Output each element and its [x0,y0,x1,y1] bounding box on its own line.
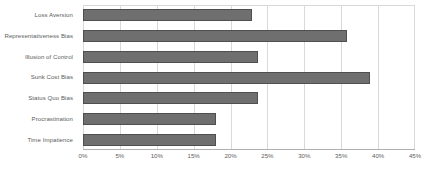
x-tick-label: 25% [261,153,273,159]
x-tick-label: 45% [409,153,421,159]
bar[interactable] [83,134,216,146]
x-axis-tick-labels: 0%5%10%15%20%25%30%35%40%45% [83,153,415,167]
bar[interactable] [83,72,370,84]
bar[interactable] [83,30,347,42]
x-tick-label: 5% [115,153,124,159]
bar[interactable] [83,113,216,125]
x-tick-label: 0% [79,153,88,159]
category-label: Procrastination [0,109,78,130]
category-axis-labels: Loss AversionRepresentativeness BiasIllu… [0,5,78,150]
x-axis-line [83,149,415,150]
bar[interactable] [83,51,258,63]
bar-slot [83,67,415,88]
bar[interactable] [83,9,252,21]
bar-slot [83,5,415,26]
category-label: Loss Aversion [0,5,78,26]
category-label: Illusion of Control [0,46,78,67]
x-tick-label: 30% [298,153,310,159]
bar-series [83,5,415,150]
x-tick-label: 15% [188,153,200,159]
category-label: Status Quo Bias [0,88,78,109]
category-label: Time Impatience [0,129,78,150]
x-tick-label: 35% [335,153,347,159]
bar-slot [83,46,415,67]
bar[interactable] [83,92,258,104]
x-tick-label: 10% [151,153,163,159]
bar-slot [83,129,415,150]
plot-area [83,5,415,150]
bar-slot [83,26,415,47]
category-label: Representativeness Bias [0,26,78,47]
bar-chart: Loss AversionRepresentativeness BiasIllu… [0,0,430,176]
bar-slot [83,88,415,109]
category-label: Sunk Cost Bias [0,67,78,88]
x-tick-label: 40% [372,153,384,159]
bar-slot [83,109,415,130]
x-tick-label: 20% [224,153,236,159]
